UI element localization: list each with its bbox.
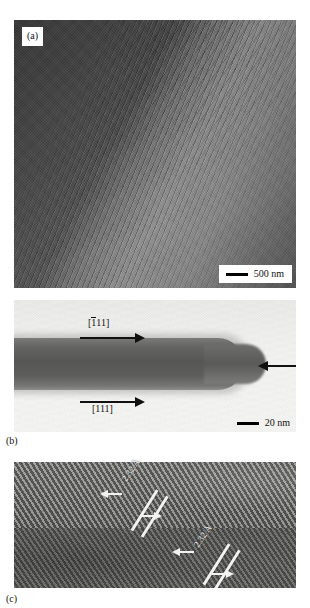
scale-bar-label: 20 nm	[265, 418, 290, 428]
arrow-shaft	[140, 515, 154, 517]
arrow-head-right-icon	[135, 333, 145, 343]
scale-bar-label: 500 nm	[254, 269, 284, 279]
arrow-head-right-icon	[135, 397, 145, 407]
nanowire-tip	[204, 344, 266, 384]
lattice-tick-line	[131, 489, 159, 531]
panel-b-image: [111] [111] 20 nm	[14, 300, 296, 432]
d-spacing-arrow-2-left	[172, 548, 194, 556]
lattice-tick-line	[213, 550, 241, 588]
panel-c-image	[14, 462, 296, 588]
arrow-shaft	[180, 551, 194, 553]
panel-a-letter: (a)	[22, 27, 43, 46]
arrow-shaft	[212, 573, 226, 575]
direction-label-bottom: [111]	[92, 404, 113, 415]
overbar-index: 1	[91, 318, 96, 329]
panel-a-scale-bar: 500 nm	[219, 265, 292, 283]
direction-arrow-top	[80, 333, 145, 343]
arrow-shaft	[267, 365, 296, 367]
direction-label-top: [111]	[88, 318, 109, 329]
panel-b-scale-bar: 20 nm	[233, 416, 294, 430]
d-spacing-arrow-1-right	[140, 512, 162, 520]
arrow-shaft	[80, 337, 136, 339]
figure-container: (a) 500 nm [111] [111] 20 n	[0, 0, 310, 608]
panel-a-image: (a) 500 nm	[14, 20, 296, 288]
panel-a-vignette	[14, 20, 296, 288]
lattice-tick-line	[203, 543, 231, 585]
arrow-head-left-icon	[172, 548, 180, 556]
tip-marker-arrow	[258, 361, 296, 371]
scale-bar-line	[237, 422, 259, 425]
arrow-head-right-icon	[226, 570, 234, 578]
d-spacing-arrow-2-right	[212, 570, 234, 578]
scale-bar-line	[226, 273, 248, 276]
bracket-close: ]	[106, 317, 109, 328]
index-rest: 11	[96, 317, 106, 328]
d-spacing-arrow-1-left	[100, 490, 122, 498]
panel-c-letter: (c)	[6, 594, 17, 604]
panel-b-letter: (b)	[6, 436, 18, 446]
arrow-shaft	[108, 493, 122, 495]
arrow-head-left-icon	[100, 490, 108, 498]
arrow-head-right-icon	[154, 512, 162, 520]
